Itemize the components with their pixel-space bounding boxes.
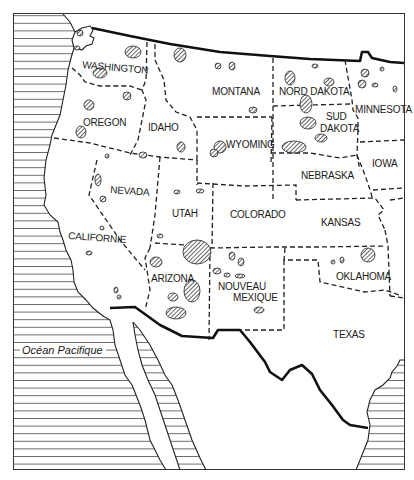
label-utah: UTAH [172,208,198,219]
label-colorado: COLORADO [230,209,286,220]
label-idaho: IDAHO [148,122,179,133]
label-oregon: OREGON [83,117,126,128]
canada-border [92,28,404,63]
map-canvas: WASHINGTON OREGON IDAHO MONTANA NORD DAK… [0,0,414,480]
gulf-of-mexico [356,360,405,470]
label-texas: TEXAS [333,329,365,340]
label-wyoming: WYOMING [226,139,275,150]
label-nouveau: NOUVEAU [218,281,266,292]
label-pacific-ocean: Océan Pacifique [22,344,103,356]
label-sud: SUD [326,111,347,122]
label-oklahoma: OKLAHOMA [336,271,392,282]
label-nord-dakota: NORD DAKOTA [279,86,350,97]
label-nevada: NEVADA [110,184,150,198]
label-montana: MONTANA [212,86,260,97]
label-californie: CALIFORNIE [68,230,127,245]
label-dakota: DAKOTA [320,123,360,134]
label-arizona: ARIZONA [151,273,195,284]
label-kansas: KANSAS [321,217,361,228]
label-iowa: IOWA [372,158,398,169]
label-washington: WASHINGTON [82,59,149,76]
label-minnesota: MINNESOTA [355,104,412,115]
label-mexique: MEXIQUE [233,292,278,303]
label-nebraska: NEBRASKA [301,170,354,181]
